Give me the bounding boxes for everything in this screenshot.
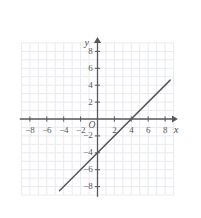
y-tick-−2: −2: [83, 131, 92, 140]
x-tick-6: 6: [146, 126, 150, 135]
x-tick-8: 8: [163, 126, 167, 135]
y-tick-2: 2: [88, 98, 92, 107]
y-tick-4: 4: [88, 81, 92, 90]
y-axis-label: y: [85, 38, 89, 48]
y-tick-6: 6: [88, 64, 92, 73]
y-tick-8: 8: [88, 47, 92, 56]
plot-area: [0, 0, 201, 218]
x-tick-−6: −6: [42, 126, 51, 135]
x-tick-−4: −4: [59, 126, 68, 135]
x-axis-label: x: [174, 125, 178, 135]
origin-label: O: [89, 121, 96, 131]
y-tick-−4: −4: [83, 148, 92, 157]
x-tick-4: 4: [129, 126, 133, 135]
axes: [20, 37, 178, 197]
x-tick-2: 2: [112, 126, 116, 135]
y-tick-−6: −6: [83, 165, 92, 174]
x-tick-−8: −8: [25, 126, 34, 135]
y-tick-−8: −8: [83, 182, 92, 191]
coordinate-graph: −8−6−4−22468−8−6−4−22468 x y O: [0, 0, 201, 218]
